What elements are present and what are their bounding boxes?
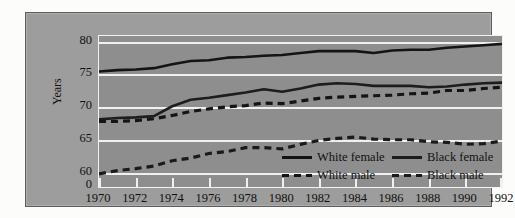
legend-swatch-solid-icon xyxy=(282,152,312,162)
series-line xyxy=(99,83,502,120)
x-axis-tick-label: 1990 xyxy=(452,191,477,206)
chart-legend: White female Black female White male Bla… xyxy=(282,148,496,184)
x-axis-tick-label: 1978 xyxy=(232,191,257,206)
legend-label: Black female xyxy=(427,151,493,164)
x-axis-tick-label: 1982 xyxy=(305,191,330,206)
x-axis-tick-label: 1974 xyxy=(159,191,184,206)
legend-item-white-female: White female xyxy=(282,151,386,164)
legend-swatch-dashed-icon xyxy=(392,170,422,180)
x-axis-tick-label: 1988 xyxy=(415,191,440,206)
legend-label: White male xyxy=(317,169,375,182)
y-axis-tick-label: 65 xyxy=(80,132,93,145)
y-axis-tick-label: 70 xyxy=(80,99,93,112)
x-axis-tick-label: 1976 xyxy=(195,191,220,206)
x-axis-tick-label: 1970 xyxy=(86,191,111,206)
legend-item-black-male: Black male xyxy=(392,169,496,182)
series-line xyxy=(99,87,502,121)
x-axis-tick-label: 1986 xyxy=(379,191,404,206)
x-axis-tick-label: 1972 xyxy=(122,191,147,206)
legend-item-white-male: White male xyxy=(282,169,386,182)
y-axis-title: Years xyxy=(50,78,65,105)
x-axis-tick-label: 1980 xyxy=(269,191,294,206)
y-axis-tick-label: 75 xyxy=(80,66,93,79)
x-axis-tick-label: 1984 xyxy=(342,191,367,206)
series-line xyxy=(99,44,502,72)
legend-label: Black male xyxy=(427,169,484,182)
y-axis-tick-label: 80 xyxy=(80,34,93,47)
chart-frame: Years 06065707580 White female Black fem… xyxy=(25,12,492,207)
x-axis-tick-label: 1992 xyxy=(489,191,514,206)
legend-swatch-dashed-icon xyxy=(282,170,312,180)
plot-area: White female Black female White male Bla… xyxy=(98,35,503,188)
legend-swatch-solid-icon xyxy=(392,152,422,162)
x-axis-labels: 1970197219741976197819801982198419861988… xyxy=(26,191,491,211)
chart-screenshot: Years 06065707580 White female Black fem… xyxy=(0,0,515,218)
y-axis-tick-label: 60 xyxy=(80,165,93,178)
y-axis-tick-label: 0 xyxy=(86,178,92,191)
legend-label: White female xyxy=(317,151,385,164)
legend-item-black-female: Black female xyxy=(392,151,496,164)
